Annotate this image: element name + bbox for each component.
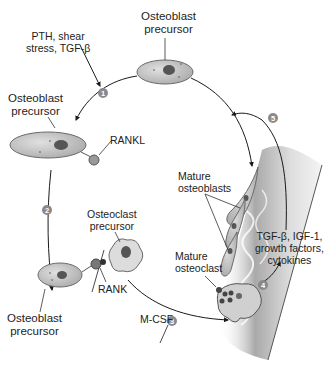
svg-text:1: 1 bbox=[101, 89, 105, 98]
rank-rankl-complex bbox=[91, 259, 101, 269]
label-mature-osteoblasts: Mature osteoblasts bbox=[178, 170, 231, 194]
step-badge-2: 2 bbox=[42, 205, 52, 215]
osteoblast-precursor-top bbox=[137, 38, 193, 84]
arrow-to-left-precursor bbox=[76, 76, 137, 120]
label-osteoblast-precursor-bottom: Osteoblast precursor bbox=[7, 312, 62, 338]
label-osteoblast-precursor-top: Osteoblast precursor bbox=[141, 10, 196, 36]
label-factors: TGF-β, IGF-1, growth factors, cytokines bbox=[255, 230, 324, 266]
label-osteoclast-precursor: Osteoclast precursor bbox=[87, 208, 137, 232]
arrow-to-mature-osteoblasts bbox=[191, 78, 252, 166]
osteoclast-precursor bbox=[109, 232, 143, 272]
osteoblast-precursor-left bbox=[10, 117, 112, 165]
label-rank: RANK bbox=[98, 283, 127, 295]
label-rankl: RANKL bbox=[110, 134, 145, 146]
rankl-molecule bbox=[89, 155, 99, 165]
step-badge-4: 4 bbox=[258, 280, 268, 290]
osteoblast-precursor-bottom bbox=[38, 259, 106, 312]
step-badge-1: 1 bbox=[98, 88, 108, 98]
label-mcsf: M-CSF bbox=[140, 313, 173, 325]
label-osteoblast-precursor-left: Osteoblast precursor bbox=[8, 92, 63, 118]
label-mature-osteoclast: Mature osteoclast bbox=[175, 250, 222, 274]
svg-text:5: 5 bbox=[271, 114, 275, 123]
label-stimuli: PTH, shear stress, TGF-β bbox=[26, 30, 90, 54]
svg-text:2: 2 bbox=[45, 206, 49, 215]
step-badge-5: 5 bbox=[268, 113, 278, 123]
